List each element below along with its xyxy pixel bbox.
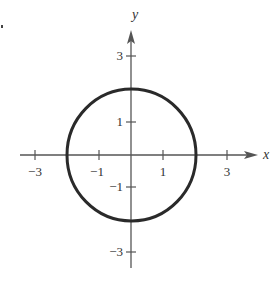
x-tick-label: 3 [224,164,231,179]
circle-graph: −3 −1 1 3 3 1 −1 −3 x y [0,0,276,288]
y-tick-label: −3 [109,244,123,259]
x-tick-label: −1 [90,164,104,179]
y-tick-label: 1 [117,114,124,129]
x-axis-label: x [262,147,270,162]
y-tick-label: 3 [117,48,124,63]
x-tick-label: −3 [28,164,42,179]
x-tick-label: 1 [160,164,167,179]
y-tick-label: −1 [109,179,123,194]
y-axis-label: y [130,7,139,22]
corner-mark [1,25,3,28]
